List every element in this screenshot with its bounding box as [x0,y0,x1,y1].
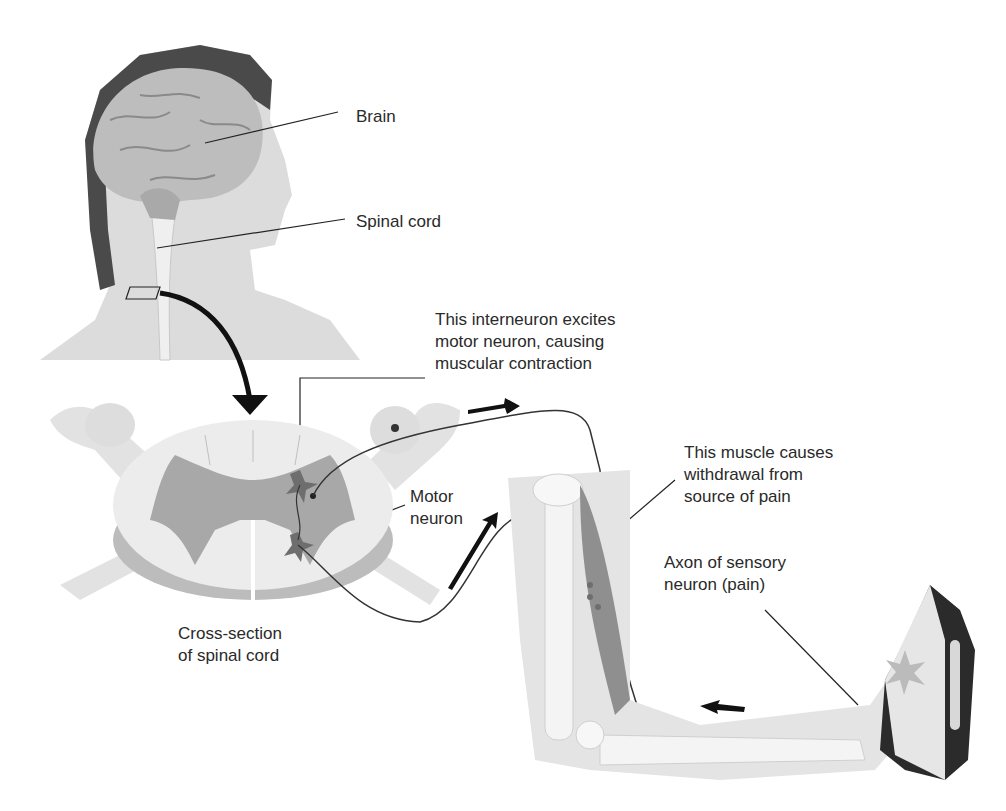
label-sensory-axon-line-2: neuron (pain) [664,574,786,596]
iron-illustration [880,585,975,780]
label-muscle-line-3: source of pain [684,486,833,508]
label-interneuron-line-3: muscular contraction [435,353,615,375]
label-sensory-axon-line-1: Axon of sensory [664,552,786,574]
label-interneuron-line-2: motor neuron, causing [435,331,615,353]
label-cross-section: Cross-section of spinal cord [178,623,282,667]
label-muscle: This muscle causes withdrawal from sourc… [684,442,833,508]
reflex-diagram-art [0,0,1006,811]
label-sensory-axon: Axon of sensory neuron (pain) [664,552,786,596]
label-muscle-line-1: This muscle causes [684,442,833,464]
label-cross-section-line-1: Cross-section [178,623,282,645]
arm-illustration [508,470,935,780]
label-motor-neuron-line-2: neuron [410,508,463,530]
label-brain: Brain [356,106,396,128]
label-motor-neuron: Motor neuron [410,486,463,530]
label-spinal-cord: Spinal cord [356,211,441,233]
head-illustration [40,45,360,415]
label-muscle-line-2: withdrawal from [684,464,833,486]
label-cross-section-line-2: of spinal cord [178,645,282,667]
label-motor-neuron-line-1: Motor [410,486,463,508]
label-interneuron-line-1: This interneuron excites [435,309,615,331]
label-interneuron: This interneuron excites motor neuron, c… [435,309,615,375]
